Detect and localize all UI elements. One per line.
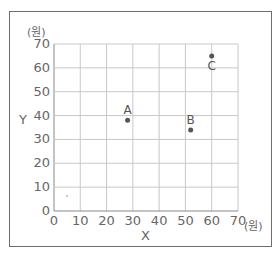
x-tick-label: 20	[98, 213, 115, 228]
y-axis-label: Y	[18, 112, 27, 127]
y-unit-label: (원)	[27, 26, 46, 39]
x-tick-labels: 010203040506070	[50, 213, 246, 228]
data-point	[209, 53, 214, 58]
point-label: A	[123, 103, 132, 117]
y-tick-label: 60	[33, 60, 50, 75]
x-tick-label: 30	[125, 213, 142, 228]
stray-dot	[66, 195, 67, 196]
y-tick-label: 30	[33, 131, 50, 146]
y-tick-label: 10	[33, 179, 50, 194]
data-point	[125, 118, 130, 123]
x-tick-label: 40	[151, 213, 168, 228]
data-points: ABC	[123, 53, 215, 132]
y-tick-labels: 010203040506070	[33, 36, 50, 218]
data-point	[188, 127, 193, 132]
y-tick-label: 50	[33, 84, 50, 99]
y-tick-label: 20	[33, 155, 50, 170]
x-tick-label: 0	[50, 213, 58, 228]
x-axis-label: X	[141, 228, 150, 243]
y-tick-label: 40	[33, 108, 50, 123]
point-label: B	[187, 113, 195, 127]
y-tick-label: 0	[42, 203, 50, 218]
x-tick-label: 50	[177, 213, 194, 228]
x-tick-label: 10	[72, 213, 89, 228]
x-unit-label: (원)	[244, 220, 263, 233]
x-tick-label: 60	[203, 213, 220, 228]
scatter-chart: 010203040506070 010203040506070 (원) Y X …	[0, 0, 275, 256]
point-label: C	[208, 59, 216, 73]
